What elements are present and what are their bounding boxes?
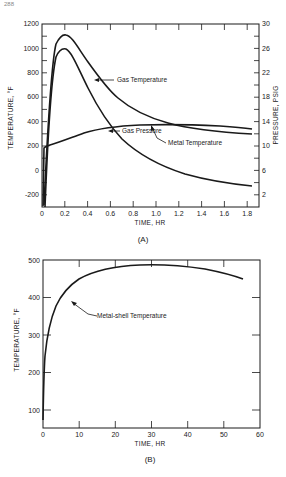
svg-text:0.6: 0.6: [106, 210, 116, 217]
gas-temperature-annotation: Gas Temperature: [94, 76, 167, 84]
svg-text:Metal-shell Temperature: Metal-shell Temperature: [97, 312, 167, 320]
chart-a: 0 0.2 0.4 0.6 0.8 1.0 1.2 1.4 1.6 1.8 -2…: [7, 20, 279, 244]
chart-a-x-tick-labels: 0 0.2 0.4 0.6 0.8 1.0 1.2 1.4 1.6 1.8: [40, 210, 252, 217]
svg-text:2: 2: [262, 191, 266, 198]
svg-text:1.4: 1.4: [197, 210, 207, 217]
chart-a-y-axis-title-left: TEMPERATURE, °F: [7, 86, 14, 149]
chart-a-plot-frame: [42, 24, 259, 207]
svg-text:6: 6: [262, 167, 266, 174]
svg-text:1000: 1000: [23, 45, 39, 52]
chart-a-y-tick-labels-right: 2 6 10 14 18 22 26 30: [262, 20, 270, 198]
svg-text:1200: 1200: [23, 20, 39, 27]
chart-a-x-ticks: [65, 24, 247, 207]
svg-text:18: 18: [262, 93, 270, 100]
svg-text:0.4: 0.4: [83, 210, 93, 217]
svg-text:1.8: 1.8: [242, 210, 252, 217]
svg-text:26: 26: [262, 45, 270, 52]
chart-b-plot-frame: [43, 260, 260, 428]
chart-a-y-tick-labels-left: -200 0 200 400 600 800 1000 1200: [23, 20, 39, 198]
svg-text:1.6: 1.6: [220, 210, 230, 217]
svg-text:100: 100: [28, 407, 40, 414]
svg-text:0: 0: [41, 431, 45, 438]
svg-text:1.2: 1.2: [174, 210, 184, 217]
svg-text:22: 22: [262, 69, 270, 76]
svg-text:0: 0: [40, 210, 44, 217]
page-number: 288: [4, 1, 15, 7]
chart-b-x-axis-title: TIME, HR: [135, 440, 166, 447]
svg-text:30: 30: [148, 431, 156, 438]
svg-text:400: 400: [28, 294, 40, 301]
svg-text:20: 20: [111, 431, 119, 438]
svg-text:0: 0: [35, 167, 39, 174]
chart-a-y-axis-title-right: PRESSURE, PSIG: [272, 85, 279, 144]
svg-text:400: 400: [27, 118, 39, 125]
svg-text:10: 10: [262, 142, 270, 149]
svg-text:600: 600: [27, 93, 39, 100]
chart-a-y-ticks-right: [254, 36, 259, 195]
chart-b-y-axis-title: TEMPERATURE, °F: [13, 308, 20, 371]
svg-text:1.0: 1.0: [151, 210, 161, 217]
svg-text:40: 40: [184, 431, 192, 438]
panel-label-b: (B): [145, 455, 156, 464]
chart-b-x-tick-labels: 0 10 20 30 40 50 60: [41, 431, 264, 438]
panel-label-a: (A): [138, 235, 149, 244]
svg-text:60: 60: [256, 431, 264, 438]
chart-b-y-tick-labels: 100 200 300 400 500: [28, 257, 40, 414]
svg-text:0.8: 0.8: [128, 210, 138, 217]
svg-text:30: 30: [262, 20, 270, 27]
svg-text:Gas Temperature: Gas Temperature: [117, 76, 167, 84]
svg-text:14: 14: [262, 118, 270, 125]
chart-a-x-axis-title: TIME, HR: [135, 219, 166, 226]
metal-shell-temperature-curve: [43, 265, 243, 420]
chart-b-x-ticks: [79, 260, 224, 428]
svg-text:200: 200: [27, 142, 39, 149]
svg-text:-200: -200: [25, 191, 39, 198]
svg-text:10: 10: [75, 431, 83, 438]
svg-text:0.2: 0.2: [60, 210, 70, 217]
svg-text:Gas Pressure: Gas Pressure: [122, 127, 162, 134]
svg-text:50: 50: [220, 431, 228, 438]
chart-b: 0 10 20 30 40 50 60 100 200 300 400 500 …: [13, 257, 264, 465]
svg-text:Metal Temperature: Metal Temperature: [168, 139, 222, 147]
figure: 288: [0, 0, 286, 477]
metal-shell-annotation: Metal-shell Temperature: [71, 301, 167, 320]
svg-text:500: 500: [28, 257, 40, 264]
metal-temperature-curve: [43, 125, 252, 206]
svg-text:800: 800: [27, 69, 39, 76]
svg-text:300: 300: [28, 332, 40, 339]
svg-text:200: 200: [28, 369, 40, 376]
